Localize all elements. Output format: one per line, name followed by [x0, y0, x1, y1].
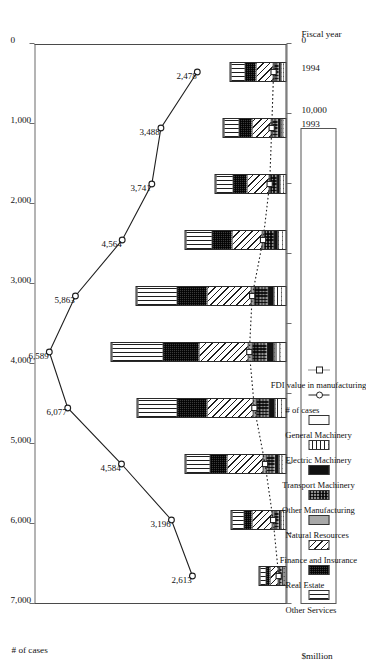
legend-swatch-real_estate [308, 565, 329, 575]
value-label-cases-1990: 5,863 [54, 295, 74, 305]
legend-swatch-other_services [308, 590, 329, 600]
legend-swatch-transport_machinery [308, 465, 329, 475]
cases-axis-title: # of cases [11, 645, 47, 655]
tick-mark [286, 323, 291, 324]
value-label-cases-1989: 6,589 [28, 351, 48, 361]
tick-mark [286, 603, 291, 604]
tick-mark [286, 253, 291, 254]
legend-label-other_services: Other Services [285, 605, 351, 615]
marker-fdi_manufacturing-1992 [267, 181, 272, 186]
tick-mark [286, 393, 291, 394]
marker-fdi_manufacturing-1991 [260, 237, 265, 242]
tick-mark [286, 183, 291, 184]
legend-label-general_machinery: General Machinery [285, 430, 352, 440]
value-label-cases-1987: 4,584 [100, 463, 120, 473]
value-label-cases-1991: 4,564 [101, 239, 121, 249]
line-fdi_manufacturing [249, 72, 278, 576]
year-label-1994: 1994 [301, 63, 319, 73]
marker-fdi_manufacturing-1988 [251, 405, 256, 410]
legend-item-fdi_manufacturing[interactable]: FDI value in manufacturing [304, 352, 332, 375]
value-label-cases-1986: 3,196 [150, 519, 170, 529]
legend-label-finance_insurance: Finance and Insurance [279, 555, 356, 565]
tick-label: 5,000 [10, 435, 31, 445]
marker-fdi_manufacturing-1993 [269, 125, 274, 130]
value-label-cases-1993: 3,488 [139, 127, 159, 137]
value-label-cases-1985: 2,613 [171, 575, 191, 585]
legend-label-transport_machinery: Transport Machinery [282, 480, 354, 490]
legend-swatch-general_machinery [308, 415, 329, 425]
tick-label: 3,000 [10, 275, 31, 285]
tick-label: 10,000 [301, 105, 326, 115]
value-label-cases-1994: 2,478 [176, 71, 196, 81]
value-axis-title: $million [301, 651, 332, 661]
tick-label: 7,000 [10, 595, 31, 605]
marker-fdi_manufacturing-1986 [270, 517, 275, 522]
axis-baseline [285, 44, 286, 604]
marker-fdi_manufacturing-1987 [262, 461, 267, 466]
legend-label-cases: # of cases [285, 405, 351, 415]
legend-label-natural_resources: Natural Resources [285, 530, 351, 540]
line-cases [49, 72, 197, 576]
marker-fdi_manufacturing-1989 [246, 349, 251, 354]
legend-label-fdi_manufacturing: FDI value in manufacturing [270, 380, 366, 390]
marker-fdi_manufacturing-1990 [249, 293, 254, 298]
tick-label: 0 [10, 35, 15, 45]
category-axis-title: Fiscal year [301, 29, 341, 39]
tick-mark [286, 43, 291, 44]
tick-label: 6,000 [10, 515, 31, 525]
marker-fdi_manufacturing-1994 [270, 69, 275, 74]
legend-label-other_manufacturing: Other Manufacturing [282, 505, 355, 515]
legend-box: Other ServicesReal EstateFinance and Ins… [300, 128, 336, 604]
legend-swatch-other_manufacturing [308, 490, 329, 500]
value-label-cases-1992: 3,741 [130, 183, 150, 193]
tick-mark [29, 43, 34, 44]
legend-marker-fdi_manufacturing [308, 365, 329, 375]
legend-swatch-natural_resources [308, 515, 329, 525]
legend-label-electric_machinery: Electric Machinery [285, 455, 351, 465]
legend-swatch-finance_insurance [308, 540, 329, 550]
legend-swatch-electric_machinery [308, 440, 329, 450]
tick-label: 2,000 [10, 195, 31, 205]
tick-label: 1,000 [10, 115, 31, 125]
legend-items: Other ServicesReal EstateFinance and Ins… [304, 132, 332, 600]
marker-fdi_manufacturing-1985 [276, 573, 281, 578]
legend-label-real_estate: Real Estate [285, 580, 351, 590]
value-label-cases-1988: 6,077 [46, 407, 66, 417]
legend-marker-cases [308, 390, 329, 400]
tick-mark [286, 113, 291, 114]
